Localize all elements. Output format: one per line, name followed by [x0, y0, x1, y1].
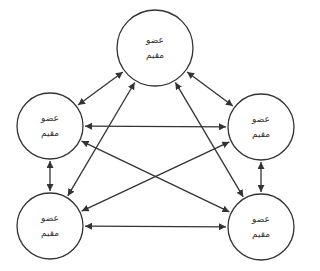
edge-left-bottom-right-bottom: [85, 226, 226, 227]
node-label-left-mid: عضو مقيم: [41, 111, 59, 141]
node-label-line1: عضو: [252, 112, 270, 127]
node-label-line2: مقيم: [252, 227, 270, 242]
edge-left-mid-right-mid: [85, 126, 226, 127]
edge-top-left-bottom: [68, 83, 135, 196]
node-label-line2: مقيم: [252, 127, 270, 142]
node-label-line1: عضو: [252, 212, 270, 227]
edge-top-right-mid: [187, 72, 233, 106]
node-label-line2: مقيم: [41, 226, 59, 241]
node-label-line1: عضو: [41, 111, 59, 126]
node-label-line1: عضو: [146, 33, 164, 48]
node-label-line1: عضو: [41, 211, 59, 226]
node-label-right-mid: عضو مقيم: [252, 112, 270, 142]
edge-group: [50, 72, 261, 227]
node-label-left-bottom: عضو مقيم: [41, 211, 59, 241]
edge-top-left-mid: [78, 72, 123, 105]
node-label-right-bottom: عضو مقيم: [252, 212, 270, 242]
node-label-line2: مقيم: [41, 126, 59, 141]
edge-top-right-bottom: [175, 82, 243, 196]
node-label-top: عضو مقيم: [146, 33, 164, 63]
node-label-line2: مقيم: [146, 48, 164, 63]
